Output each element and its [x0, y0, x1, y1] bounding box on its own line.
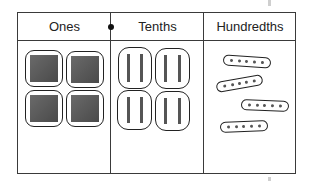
tenths-block	[155, 91, 190, 131]
decimal-point	[108, 24, 114, 30]
unit-square	[71, 95, 99, 122]
tenth-rod	[164, 98, 167, 124]
tenth-rod	[127, 97, 130, 123]
hundredth-dot	[256, 104, 259, 107]
unit-square	[30, 55, 58, 82]
hundredth-dot	[263, 104, 266, 107]
hundredths-group	[220, 120, 268, 133]
header-divider	[18, 40, 295, 41]
hundredths-group	[241, 99, 289, 112]
tenth-rod	[140, 54, 143, 82]
tenth-rod	[178, 55, 181, 82]
hundredth-dot	[223, 84, 226, 87]
hundredth-dot	[261, 61, 264, 64]
tenth-rod	[178, 98, 181, 124]
ones-block	[66, 51, 104, 88]
hundredth-dot	[248, 103, 251, 106]
hundredth-dot	[227, 125, 230, 128]
hundredth-dot	[245, 60, 248, 63]
margin-tick-top	[268, 0, 271, 6]
hundredth-dot	[253, 60, 256, 63]
hundredth-dot	[242, 125, 245, 128]
header-ones: Ones	[18, 13, 111, 40]
ones-block	[25, 50, 63, 87]
tenth-rod	[140, 97, 143, 123]
hundredths-group	[215, 74, 263, 93]
header-hundredths: Hundredths	[204, 13, 296, 40]
tenths-block	[117, 90, 152, 130]
place-value-chart: Ones Tenths Hundredths	[17, 12, 296, 174]
hundredth-dot	[230, 83, 233, 86]
tenths-block	[155, 48, 190, 89]
hundredth-dot	[245, 80, 248, 83]
hundredth-dot	[258, 124, 261, 127]
hundredth-dot	[279, 104, 282, 107]
tenth-rod	[164, 55, 167, 82]
header-tenths: Tenths	[111, 13, 204, 40]
column-divider-2	[203, 13, 204, 173]
unit-square	[71, 56, 99, 83]
hundredth-dot	[230, 59, 233, 62]
hundredth-dot	[271, 104, 274, 107]
hundredths-group	[223, 54, 272, 68]
hundredth-dot	[235, 125, 238, 128]
unit-square	[30, 95, 58, 122]
tenths-block	[118, 47, 152, 89]
column-divider-1	[110, 13, 111, 173]
ones-block	[66, 90, 104, 127]
tenth-rod	[127, 54, 130, 82]
hundredth-dot	[250, 125, 253, 128]
hundredth-dot	[238, 59, 241, 62]
hundredth-dot	[238, 82, 241, 85]
margin-tick-bottom	[268, 177, 271, 181]
ones-block	[25, 90, 63, 127]
hundredth-dot	[252, 79, 255, 82]
